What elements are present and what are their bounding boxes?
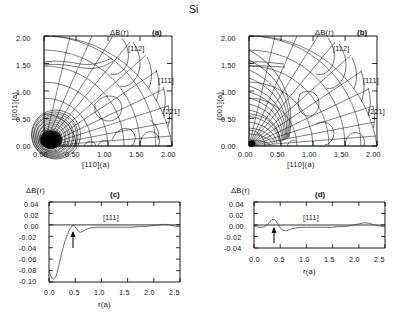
panel-d-plot [0,0,409,327]
panel-d-arrow-annotation [272,227,277,243]
figure-root: Si ΔB(r) (a) 2.00 1.50 1.00 0.50 0.00 0.… [0,0,409,327]
